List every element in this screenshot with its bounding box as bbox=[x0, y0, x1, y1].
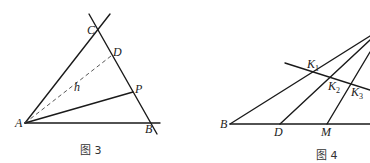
figure-3: A B C D P h 图 3 bbox=[14, 14, 160, 157]
label-B: B bbox=[220, 117, 228, 131]
label-K2: K2 bbox=[327, 79, 340, 95]
label-D: D bbox=[273, 125, 283, 139]
line-AC bbox=[25, 14, 110, 123]
label-M: M bbox=[320, 125, 332, 139]
label-K1: K1 bbox=[306, 57, 319, 73]
altitude-h-dashed bbox=[25, 56, 111, 123]
figure-4: B D M K1 K2 K3 图 4 bbox=[220, 36, 370, 162]
label-C: C bbox=[87, 23, 96, 37]
segment-AP bbox=[25, 92, 133, 123]
label-P: P bbox=[134, 82, 143, 96]
label-A: A bbox=[14, 116, 23, 130]
caption-figure-3: 图 3 bbox=[80, 144, 102, 157]
diagram-canvas: A B C D P h 图 3 B D M K1 K2 K3 图 4 bbox=[0, 0, 370, 163]
line-CB bbox=[89, 14, 157, 134]
line-D-apex bbox=[280, 40, 370, 124]
label-h: h bbox=[74, 80, 80, 94]
caption-figure-4: 图 4 bbox=[316, 149, 338, 162]
label-D: D bbox=[112, 45, 122, 59]
line-B-apex bbox=[230, 36, 370, 124]
label-B: B bbox=[145, 122, 153, 136]
